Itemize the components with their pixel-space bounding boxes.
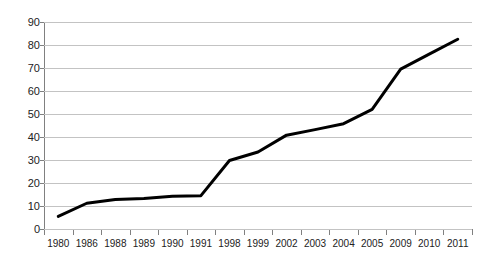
- x-axis-tick: [443, 230, 444, 235]
- y-axis-tick-label: 70: [2, 63, 40, 74]
- x-axis-tick-label: 2010: [415, 238, 444, 250]
- x-axis-tick-label: 2004: [329, 238, 358, 250]
- x-axis-tick: [358, 230, 359, 235]
- plot-area: [44, 22, 472, 229]
- cropped-title-remnant: [0, 0, 485, 3]
- x-axis-tick-label: 2005: [358, 238, 387, 250]
- y-axis-tick-label: 60: [2, 86, 40, 97]
- x-axis-tick-label: 1999: [244, 238, 273, 250]
- y-axis-tick-label: 20: [2, 178, 40, 189]
- x-axis-tick-label: 2003: [301, 238, 330, 250]
- line-chart-figure: 0102030405060708090 19801986198819891990…: [0, 0, 485, 268]
- x-axis-tick-label: 1990: [158, 238, 187, 250]
- y-axis-tick-labels: 0102030405060708090: [0, 0, 40, 268]
- x-axis-tick: [415, 230, 416, 235]
- x-axis-tick-label: 1998: [215, 238, 244, 250]
- x-axis-tick-label: 1991: [187, 238, 216, 250]
- x-axis-tick-label: 1989: [130, 238, 159, 250]
- x-axis-tick: [73, 230, 74, 235]
- x-axis-tick: [244, 230, 245, 235]
- x-axis-tick-label: 2009: [386, 238, 415, 250]
- x-axis-tick-labels: 1980198619881989199019911998199920022003…: [44, 238, 472, 258]
- x-axis-tick: [44, 230, 45, 235]
- y-axis-tick-label: 10: [2, 201, 40, 212]
- x-axis-tick: [101, 230, 102, 235]
- x-axis-tick-label: 2011: [443, 238, 472, 250]
- x-axis-tick: [301, 230, 302, 235]
- x-axis-tick-label: 1986: [73, 238, 102, 250]
- x-axis-tick: [472, 230, 473, 235]
- x-axis-tick: [215, 230, 216, 235]
- y-axis-tick-label: 80: [2, 40, 40, 51]
- x-axis-tick: [272, 230, 273, 235]
- x-axis-tick: [386, 230, 387, 235]
- y-axis-tick-label: 30: [2, 155, 40, 166]
- x-axis-tick: [187, 230, 188, 235]
- y-axis-tick-label: 90: [2, 17, 40, 28]
- x-axis-tick-label: 1988: [101, 238, 130, 250]
- x-axis-tick: [130, 230, 131, 235]
- x-axis-tick-marks: [44, 230, 473, 236]
- x-axis-tick-label: 2002: [272, 238, 301, 250]
- x-axis-tick: [158, 230, 159, 235]
- series-polyline: [58, 39, 457, 216]
- y-axis-tick-label: 40: [2, 132, 40, 143]
- y-axis-tick-label: 50: [2, 109, 40, 120]
- y-axis-tick-label: 0: [2, 224, 40, 235]
- x-axis-tick-label: 1980: [44, 238, 73, 250]
- x-axis-tick: [329, 230, 330, 235]
- data-series-line: [44, 22, 472, 229]
